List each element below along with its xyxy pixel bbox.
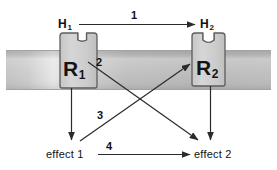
receptor-r2-label: R2	[196, 57, 218, 78]
receptor-r1-label: R1	[63, 58, 85, 79]
diagram-canvas: H1 H2 R1 R2 1 2 3 4 effect 1 effect 2	[0, 0, 277, 170]
cell-membrane-band	[6, 50, 271, 90]
effect-1-label: effect 1	[46, 149, 83, 160]
diagram-graphics	[0, 0, 277, 170]
effect-2-label: effect 2	[194, 149, 231, 160]
arrow-3-number-label: 3	[97, 110, 103, 121]
ligand-h2-label: H2	[200, 18, 214, 30]
ligand-h1-label: H1	[58, 18, 72, 30]
arrow-4-number-label: 4	[106, 141, 112, 152]
arrow-1-number-label: 1	[131, 10, 137, 21]
arrow-2-number-label: 2	[96, 57, 102, 68]
